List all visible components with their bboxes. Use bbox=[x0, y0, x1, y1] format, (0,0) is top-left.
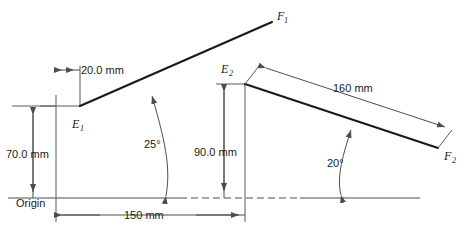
point-label-e1-subscript: 1 bbox=[80, 124, 84, 133]
dimension-label-70mm: 70.0 mm bbox=[6, 148, 49, 160]
dimension-label-20mm: 20.0 mm bbox=[81, 64, 124, 76]
dimension-label-160mm: 160 mm bbox=[333, 82, 373, 94]
point-label-e2-subscript: 2 bbox=[229, 69, 233, 78]
diagram-canvas: 20.0 mm 70.0 mm 90.0 mm 150 mm 160 mm 25… bbox=[0, 0, 476, 241]
dimension-label-150mm: 150 mm bbox=[124, 209, 164, 221]
point-label-e1: E 1 bbox=[71, 117, 84, 133]
diagram-root: 20.0 mm 70.0 mm 90.0 mm 150 mm 160 mm 25… bbox=[0, 0, 476, 241]
force-label-f2-subscript: 2 bbox=[452, 156, 456, 165]
point-label-e1-letter: E bbox=[71, 117, 80, 131]
force-label-f1: F 1 bbox=[276, 9, 288, 25]
dimension-160mm bbox=[245, 66, 452, 148]
dimension-label-90mm: 90.0 mm bbox=[194, 146, 237, 158]
extension-lines bbox=[40, 66, 245, 222]
force-label-f2: F 2 bbox=[443, 149, 456, 165]
angle-label-25: 25° bbox=[144, 138, 161, 150]
force-label-f1-subscript: 1 bbox=[284, 16, 288, 25]
origin-label: Origin bbox=[16, 197, 45, 209]
point-label-e2-letter: E bbox=[220, 62, 229, 76]
angle-label-20: 20° bbox=[327, 157, 344, 169]
force-label-f2-letter: F bbox=[443, 149, 452, 163]
point-label-e2: E 2 bbox=[220, 62, 233, 78]
